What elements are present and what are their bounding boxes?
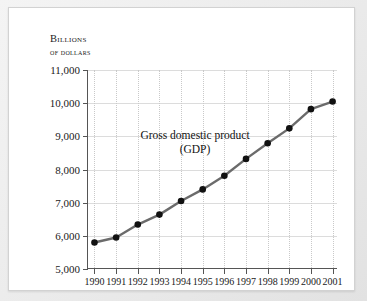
series-annotation: Gross domestic product (GDP) [120, 128, 270, 156]
data-point [178, 198, 185, 205]
data-point [221, 173, 228, 180]
x-axis-tick-label: 1991 [106, 276, 126, 287]
data-series-gdp [88, 70, 338, 269]
x-axis-tick-label: 1990 [84, 276, 104, 287]
y-axis-tick [83, 269, 88, 270]
x-axis-tick-label: 1999 [279, 276, 299, 287]
y-axis-tick-label: 8,000 [55, 164, 80, 176]
series-annotation-line1: Gross domestic product [120, 128, 270, 142]
x-axis-tick-label: 2000 [301, 276, 321, 287]
x-axis-tick-label: 1993 [149, 276, 169, 287]
y-axis-tick-label: 9,000 [55, 130, 80, 142]
y-axis-tick-label: 11,000 [50, 64, 80, 76]
y-axis-tick-label: 7,000 [55, 197, 80, 209]
chart-card: Billions of dollars 11,00010,0009,0008,0… [8, 7, 355, 291]
y-axis-title: Billions of dollars [50, 33, 91, 58]
data-point [286, 125, 293, 132]
x-axis-tick-label: 1997 [236, 276, 256, 287]
x-axis-tick-label: 1996 [214, 276, 234, 287]
data-point [199, 186, 206, 193]
data-point [308, 106, 315, 113]
series-annotation-line2: (GDP) [120, 142, 270, 156]
x-axis-tick-label: 1998 [258, 276, 278, 287]
page-background: Billions of dollars 11,00010,0009,0008,0… [0, 0, 367, 301]
y-axis-tick-label: 5,000 [55, 263, 80, 275]
x-axis-tick-label: 1994 [171, 276, 191, 287]
plot-area: 11,00010,0009,0008,0007,0006,0005,000 19… [87, 70, 337, 269]
x-axis-tick-label: 1992 [128, 276, 148, 287]
data-point [91, 239, 98, 246]
x-axis-tick-label: 1995 [193, 276, 213, 287]
data-point [113, 234, 120, 241]
y-axis-tick-label: 10,000 [50, 97, 80, 109]
y-axis-title-line1: Billions [50, 33, 91, 45]
data-point [329, 98, 336, 105]
gdp-line [94, 102, 332, 243]
data-point [156, 211, 163, 218]
data-point [243, 156, 250, 163]
x-axis-tick-label: 2001 [323, 276, 343, 287]
y-axis-tick-label: 6,000 [55, 230, 80, 242]
y-axis-title-line2: of dollars [50, 46, 91, 58]
data-point [134, 221, 141, 228]
